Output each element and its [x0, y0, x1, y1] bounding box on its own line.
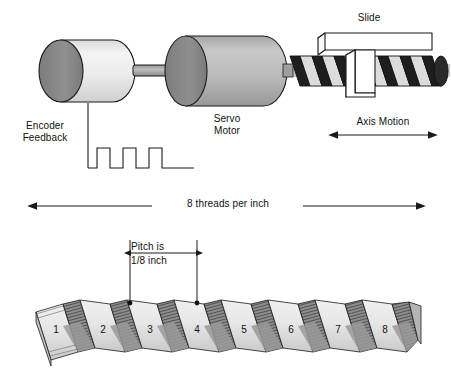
thread-number-8: 8 — [378, 324, 392, 335]
pitch-label-line1: Pitch is — [131, 241, 197, 253]
pitch-label-line2: 1/8 inch — [131, 255, 197, 267]
servo-motor-body — [165, 36, 293, 106]
thread-number-5: 5 — [237, 324, 251, 335]
encoder-feedback-waveform — [88, 103, 194, 168]
thread-pitch-illustration — [30, 300, 424, 366]
threads-per-inch-label: 8 threads per inch — [155, 198, 301, 210]
diagram-canvas — [0, 0, 451, 375]
thread-number-7: 7 — [331, 324, 345, 335]
servo-motor-label: Servo Motor — [196, 113, 258, 136]
thread-number-6: 6 — [284, 324, 298, 335]
motor-end-cap — [165, 36, 207, 106]
slide-label: Slide — [344, 12, 394, 24]
encoder-feedback-label: Encoder Feedback — [8, 120, 82, 143]
axis-motion-label: Axis Motion — [330, 116, 436, 128]
thread-number-4: 4 — [190, 324, 204, 335]
servo-ballscrew-diagram: Encoder Feedback Servo Motor Slide Axis … — [0, 0, 451, 375]
thread-number-2: 2 — [96, 324, 110, 335]
thread-number-3: 3 — [143, 324, 157, 335]
thread-number-1: 1 — [49, 324, 63, 335]
encoder-end-cap — [39, 40, 83, 102]
encoder-body — [39, 40, 135, 102]
